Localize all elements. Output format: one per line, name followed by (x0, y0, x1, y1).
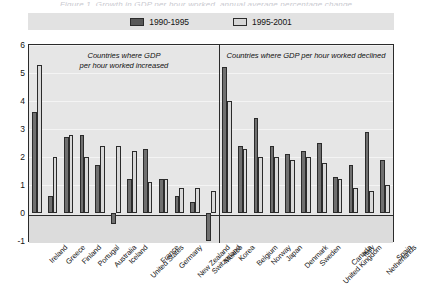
bar-iceland-1995-2001 (116, 146, 121, 213)
chart-plot-area: 6543210-1 Countries where GDP per hour w… (28, 44, 394, 242)
bar-new-zealand-1995-2001 (179, 188, 184, 213)
y-axis-tick-label: 4 (20, 97, 25, 105)
bar-norway-1995-2001 (258, 157, 263, 213)
legend-label-1995-2001: 1995-2001 (252, 17, 292, 27)
bar-belgium-1995-2001 (243, 149, 248, 213)
bar-netherlands-1995-2001 (369, 191, 374, 213)
bar-switzerland-1995-2001 (195, 188, 200, 213)
bar-ireland-1995-2001 (37, 65, 42, 213)
bar-iceland-1990-1995 (111, 213, 116, 224)
y-axis-tick-label: 6 (20, 41, 25, 49)
legend-entry-1995-2001: 1995-2001 (233, 17, 292, 27)
bar-france-1995-2001 (148, 182, 153, 213)
chart-legend: 1990-1995 1995-2001 (28, 13, 394, 30)
panel-caption-increased: Countries where GDP per hour worked incr… (29, 51, 219, 71)
panel-caption-declined: Countries where GDP per hour worked decl… (219, 51, 393, 61)
y-axis-tick-label: 5 (20, 69, 25, 77)
gridline (29, 73, 393, 74)
legend-label-1990-1995: 1990-1995 (149, 17, 189, 27)
bar-australia-1995-2001 (100, 146, 105, 213)
panel-divider (219, 45, 220, 243)
bar-italy-1995-2001 (353, 188, 358, 213)
bar-mexico-1995-2001 (211, 191, 216, 213)
bar-mexico-1990-1995 (206, 213, 211, 241)
bar-finland-1995-2001 (69, 135, 74, 213)
bar-portugal-1995-2001 (84, 157, 89, 213)
legend-entry-1990-1995: 1990-1995 (130, 17, 189, 27)
bar-denmark-1995-2001 (290, 160, 295, 213)
legend-swatch-icon-light (233, 18, 247, 26)
y-axis-tick-label: 1 (20, 181, 25, 189)
y-axis-tick-label: 2 (20, 153, 25, 161)
bar-united-states-1995-2001 (132, 151, 137, 213)
bar-greece-1995-2001 (53, 157, 58, 213)
bar-japan-1995-2001 (274, 157, 279, 213)
bar-korea-1995-2001 (227, 101, 232, 213)
figure-caption-cutoff: Figure 1. Growth in GDP per hour worked,… (0, 0, 421, 6)
bar-sweden-1995-2001 (306, 157, 311, 213)
bar-canada-1995-2001 (338, 179, 343, 213)
gridline (29, 101, 393, 102)
legend-swatch-icon-dark (130, 18, 144, 26)
negative-value-band (29, 215, 393, 243)
gridline (29, 129, 393, 130)
bar-germany-1995-2001 (164, 179, 169, 213)
gridline (29, 45, 393, 46)
y-axis-tick-label: 3 (20, 125, 25, 133)
y-axis-tick-label: 0 (20, 209, 25, 217)
x-axis-labels: IrelandGreeceFinlandPortugalAustraliaIce… (0, 243, 421, 298)
bar-spain-1995-2001 (385, 185, 390, 213)
bar-united-kingdom-1995-2001 (322, 163, 327, 213)
